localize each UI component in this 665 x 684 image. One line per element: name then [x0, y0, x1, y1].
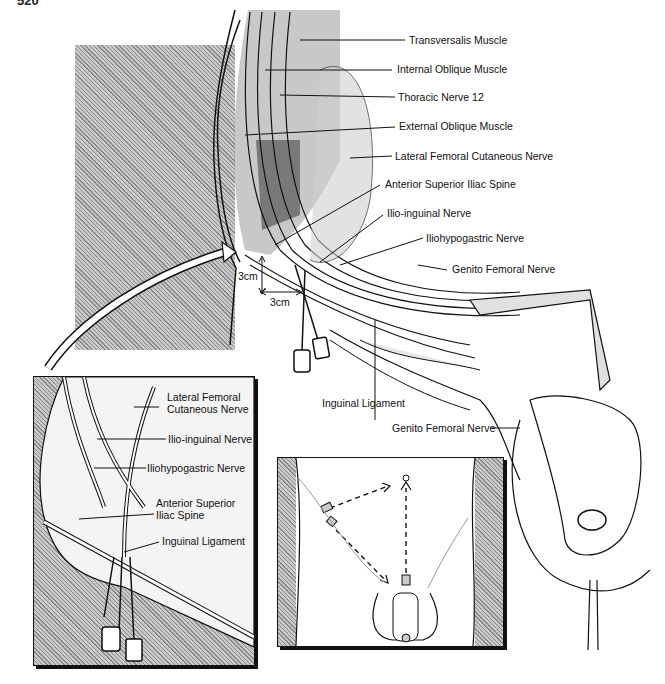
inset-label-iliohypogastric-nerve: Iliohypogastric Nerve [147, 462, 245, 474]
label-anterior-superior-iliac-spine: Anterior Superior Iliac Spine [385, 178, 516, 190]
label-transversalis-muscle: Transversalis Muscle [409, 34, 507, 46]
measure-horizontal-3cm: 3cm [270, 296, 290, 308]
inset-label-anterior-superior-iliac-spine: Anterior Superior Iliac Spine [156, 497, 241, 521]
label-external-oblique-muscle: External Oblique Muscle [399, 120, 513, 132]
label-genito-femoral-nerve-upper: Genito Femoral Nerve [452, 263, 555, 275]
label-iliohypogastric-nerve: Iliohypogastric Nerve [426, 232, 524, 244]
label-internal-oblique-muscle: Internal Oblique Muscle [397, 63, 507, 75]
inset-left-illustration [34, 377, 254, 665]
inset-right-panel [277, 457, 504, 647]
inset-label-inguinal-ligament: Inguinal Ligament [162, 535, 245, 547]
inset-label-lateral-femoral-cutaneous-nerve: Lateral Femoral Cutaneous Nerve [167, 391, 252, 415]
measure-vertical-3cm: 3cm [238, 270, 258, 282]
inset-left-panel: Lateral Femoral Cutaneous Nerve Ilio-ing… [33, 376, 255, 666]
label-inguinal-ligament: Inguinal Ligament [322, 397, 405, 409]
inset-right-illustration [278, 458, 503, 646]
label-ilio-inguinal-nerve: Ilio-inguinal Nerve [387, 207, 471, 219]
label-genito-femoral-nerve-lower: Genito Femoral Nerve [392, 422, 495, 434]
label-lateral-femoral-cutaneous-nerve: Lateral Femoral Cutaneous Nerve [395, 150, 553, 162]
inset-label-ilio-inguinal-nerve: Ilio-inguinal Nerve [168, 433, 252, 445]
label-thoracic-nerve-12: Thoracic Nerve 12 [398, 91, 484, 103]
